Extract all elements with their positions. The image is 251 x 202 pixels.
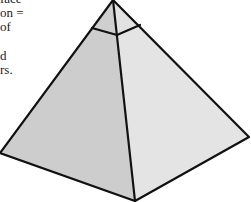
pyramid-figure (0, 0, 251, 202)
pyramid-left-face (0, 28, 135, 201)
